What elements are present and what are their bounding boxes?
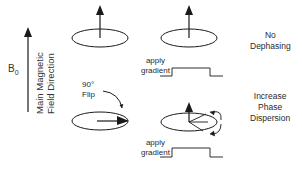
- field-direction-line2: Field Direction: [45, 52, 56, 114]
- flip-line1: 90°: [82, 80, 95, 90]
- bottom-apply-gradient-label: apply gradient: [141, 138, 170, 158]
- flip-label: 90° Flip: [82, 80, 95, 100]
- b0-field-arrow: [24, 27, 32, 112]
- top-apply-line1: apply: [141, 56, 170, 66]
- top-left-spin: [72, 5, 128, 47]
- bottom-right-spin: [161, 102, 217, 131]
- flip-curved-arrow: [103, 91, 122, 108]
- field-direction-label: Main Magnetic Field Direction: [34, 52, 56, 114]
- no-dephasing-label: No Dephasing: [250, 30, 291, 52]
- top-apply-line2: gradient: [141, 66, 170, 76]
- dispersion-line3: Dispersion: [250, 113, 290, 124]
- b0-symbol: B: [8, 63, 15, 74]
- no-dephasing-line2: Dephasing: [250, 41, 291, 52]
- bottom-apply-line1: apply: [141, 138, 170, 148]
- dispersion-line2: Phase: [250, 102, 290, 113]
- phase-dispersion-label: Increase Phase Dispersion: [250, 91, 290, 124]
- bottom-apply-line2: gradient: [141, 148, 170, 158]
- top-apply-gradient-label: apply gradient: [141, 56, 170, 76]
- dispersion-arrows: [210, 111, 221, 136]
- no-dephasing-line1: No: [250, 30, 291, 41]
- b0-label: B0: [8, 63, 19, 76]
- field-direction-line1: Main Magnetic: [34, 52, 45, 114]
- bottom-left-spin: [72, 112, 129, 130]
- top-right-spin: [161, 5, 217, 47]
- dispersion-line1: Increase: [250, 91, 290, 102]
- flip-line2: Flip: [82, 90, 95, 100]
- b0-subscript: 0: [15, 69, 19, 76]
